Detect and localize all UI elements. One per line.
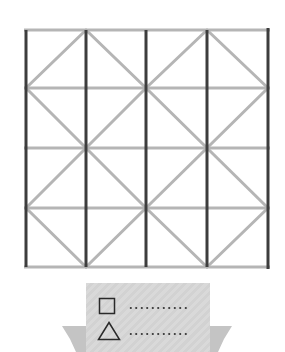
triangle-icon: [97, 321, 121, 341]
square-icon: [98, 297, 116, 315]
legend-row-square: [86, 295, 210, 317]
square-count-blank[interactable]: [128, 307, 190, 309]
legend-box: [86, 283, 210, 352]
triangle-count-blank[interactable]: [128, 333, 190, 335]
legend-row-triangle: [86, 321, 210, 343]
